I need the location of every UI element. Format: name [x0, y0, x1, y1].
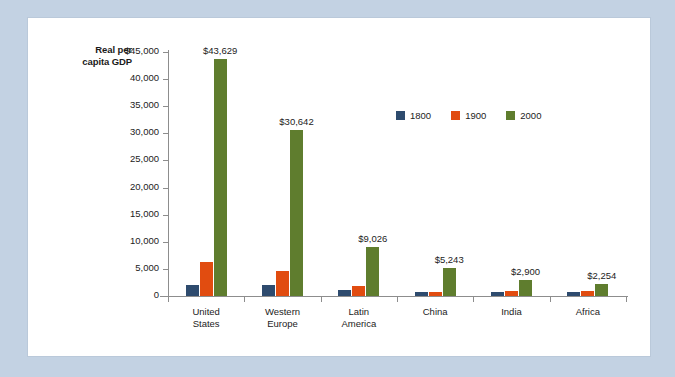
chart-legend: 180019002000 — [396, 110, 541, 121]
x-axis-tick — [321, 296, 322, 302]
y-axis-tick: 5,000 — [28, 269, 168, 270]
x-axis-tick — [473, 296, 474, 302]
bar-2000[interactable] — [443, 268, 456, 296]
x-axis-tick — [244, 296, 245, 302]
bar-group — [567, 52, 608, 296]
x-axis-tick — [626, 296, 627, 302]
bar-2000[interactable] — [214, 59, 227, 296]
legend-item-2000[interactable]: 2000 — [506, 110, 541, 121]
y-tick-label: 20,000 — [130, 181, 159, 192]
x-axis-tick — [550, 296, 551, 302]
bar-group — [338, 52, 379, 296]
bar-1800[interactable] — [415, 292, 428, 296]
bar-1800[interactable] — [186, 285, 199, 296]
bar-value-label: $5,243 — [435, 254, 464, 265]
bar-1800[interactable] — [491, 292, 504, 296]
y-axis-tick: 0 — [28, 296, 168, 297]
bar-1800[interactable] — [262, 285, 275, 296]
x-axis-category-label: United States — [192, 306, 219, 329]
bar-1900[interactable] — [352, 286, 365, 296]
legend-swatch-icon — [451, 111, 460, 120]
bar-1900[interactable] — [581, 291, 594, 296]
x-axis-category-label: Western Europe — [265, 306, 300, 329]
chart-page: Real percapita GDP $45,00040,00035,00030… — [0, 0, 675, 377]
y-axis-ticks: $45,00040,00035,00030,00025,00020,00015,… — [28, 18, 168, 296]
y-axis-tick: 35,000 — [28, 106, 168, 107]
x-axis-category-label: Latin America — [341, 306, 376, 329]
bar-group — [186, 52, 227, 296]
bar-value-label: $2,254 — [587, 270, 616, 281]
legend-label: 2000 — [520, 110, 541, 121]
bar-value-label: $9,026 — [358, 233, 387, 244]
bar-2000[interactable] — [519, 280, 532, 296]
bar-group — [491, 52, 532, 296]
x-axis-tick — [397, 296, 398, 302]
x-axis-category-label: Africa — [576, 306, 600, 318]
bar-1900[interactable] — [200, 262, 213, 296]
legend-item-1800[interactable]: 1800 — [396, 110, 431, 121]
y-tick-label: 5,000 — [135, 262, 159, 273]
y-axis-tick: 10,000 — [28, 242, 168, 243]
x-axis-line — [160, 296, 628, 297]
legend-label: 1800 — [410, 110, 431, 121]
legend-swatch-icon — [396, 111, 405, 120]
y-axis-tick: 20,000 — [28, 188, 168, 189]
y-tick-label: 30,000 — [130, 126, 159, 137]
y-tick-label: 10,000 — [130, 235, 159, 246]
bar-value-label: $30,642 — [279, 116, 313, 127]
bar-1800[interactable] — [567, 292, 580, 296]
plot-area — [168, 52, 626, 296]
bar-group — [262, 52, 303, 296]
bar-2000[interactable] — [595, 284, 608, 296]
y-tick-label: 35,000 — [130, 99, 159, 110]
y-tick-label: 25,000 — [130, 153, 159, 164]
y-axis-tick: 30,000 — [28, 133, 168, 134]
y-axis-tick: $45,000 — [28, 52, 168, 53]
legend-label: 1900 — [465, 110, 486, 121]
bar-1900[interactable] — [276, 271, 289, 296]
bar-1900[interactable] — [505, 291, 518, 296]
y-tick-label: 40,000 — [130, 72, 159, 83]
bar-value-label: $43,629 — [203, 45, 237, 56]
legend-swatch-icon — [506, 111, 515, 120]
bar-2000[interactable] — [290, 130, 303, 296]
x-axis-category-label: China — [423, 306, 448, 318]
y-axis-tick: 40,000 — [28, 79, 168, 80]
y-axis-tick: 15,000 — [28, 215, 168, 216]
x-axis-tick — [168, 296, 169, 302]
y-axis-tick: 25,000 — [28, 160, 168, 161]
legend-item-1900[interactable]: 1900 — [451, 110, 486, 121]
bar-value-label: $2,900 — [511, 266, 540, 277]
bar-1800[interactable] — [338, 290, 351, 296]
bar-1900[interactable] — [429, 292, 442, 296]
x-axis-category-label: India — [501, 306, 522, 318]
y-tick-label: 15,000 — [130, 208, 159, 219]
chart-card: Real percapita GDP $45,00040,00035,00030… — [28, 18, 650, 356]
y-tick-label: 0 — [154, 289, 159, 300]
bar-2000[interactable] — [366, 247, 379, 296]
y-tick-label: $45,000 — [125, 45, 159, 56]
